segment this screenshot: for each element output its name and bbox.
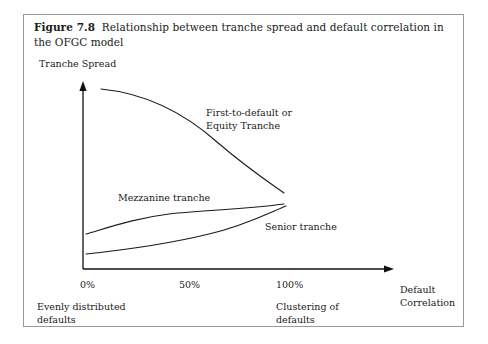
x-tick-label-0: 0% bbox=[80, 279, 95, 292]
chart-plot-area: Tranche Spread First-to-default or Equit… bbox=[24, 15, 465, 328]
curve-equity-tranche bbox=[101, 89, 284, 193]
y-axis-label: Tranche Spread bbox=[39, 58, 116, 71]
figure-frame: Figure 7.8 Relationship between tranche … bbox=[23, 14, 464, 327]
x-tick-label-50: 50% bbox=[179, 279, 200, 292]
axis-note-clustering-of-defaults: Clustering of defaults bbox=[276, 301, 339, 326]
y-axis-arrowhead bbox=[79, 81, 86, 91]
series-label-equity-tranche: First-to-default or Equity Tranche bbox=[206, 107, 292, 132]
x-tick-label-100: 100% bbox=[276, 279, 303, 292]
series-label-mezzanine-tranche: Mezzanine tranche bbox=[118, 192, 210, 205]
curve-senior-tranche bbox=[86, 206, 286, 254]
x-axis-label: Default Correlation bbox=[400, 284, 465, 309]
axis-note-evenly-distributed-defaults: Evenly distributed defaults bbox=[37, 301, 126, 326]
x-axis-arrowhead bbox=[384, 265, 394, 272]
series-label-senior-tranche: Senior tranche bbox=[265, 221, 337, 234]
